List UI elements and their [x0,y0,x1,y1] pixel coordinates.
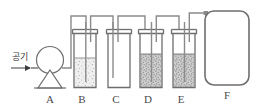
component-d-bottle: D [139,22,164,105]
component-b-label: B [78,93,85,105]
tube-c-to-d-path [118,16,145,30]
tube-b-to-c [91,16,113,30]
tube-b-to-c-path [91,16,113,30]
component-a-pump [31,47,66,89]
vessel-f-body [205,11,249,85]
tube-e-to-f-path [189,13,206,22]
apparatus-diagram: 공기 [0,0,257,109]
component-b-bottle: B [73,22,98,105]
component-a-label: A [46,93,54,105]
diagram-canvas: 공기 [0,0,257,109]
bottle-b-liquid [75,58,96,87]
bottle-c-body [108,33,130,88]
air-inlet-label: 공기 [12,52,28,62]
component-f-label: F [224,89,230,101]
component-c-bottle: C [107,22,132,105]
component-e-label: E [178,93,185,105]
component-c-label: C [112,93,119,105]
air-inlet-group: 공기 [11,52,30,68]
tube-d-to-e [156,16,179,30]
tube-c-to-d [118,16,145,30]
component-f-vessel: F [205,11,249,101]
component-d-label: D [144,93,152,105]
pump-base-trapezoid [38,70,62,88]
tube-d-to-e-path [156,16,179,30]
component-e-bottle: E [172,22,197,105]
